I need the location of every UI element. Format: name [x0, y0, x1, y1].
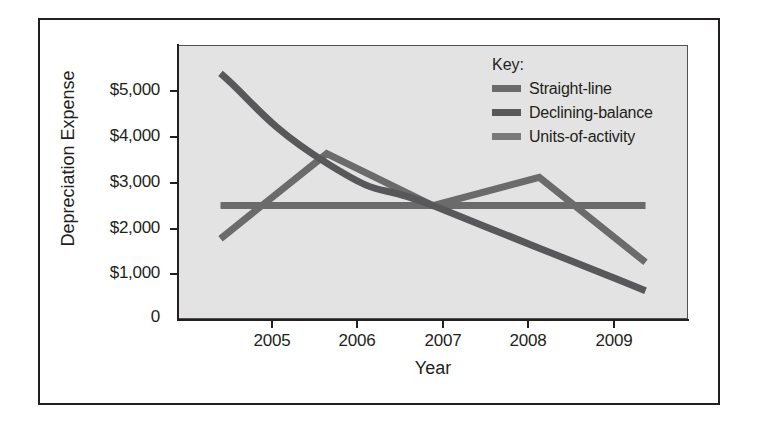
- x-axis-title: Year: [178, 358, 688, 379]
- figure-container: $5,000 $4,000 $3,000 $2,000 $1,000 0 200…: [0, 0, 758, 424]
- x-tick-2006: [356, 319, 358, 328]
- y-tick-label-0: 0: [88, 307, 160, 327]
- x-tick-label-2008: 2008: [493, 331, 563, 351]
- legend-swatch-straight-line: [492, 85, 521, 92]
- legend-label-straight-line: Straight-line: [529, 80, 612, 98]
- x-tick-2005: [271, 319, 273, 328]
- legend-swatch-declining-balance: [492, 109, 521, 116]
- legend-item-units-of-activity: Units-of-activity: [492, 126, 692, 147]
- x-tick-label-2007: 2007: [408, 331, 478, 351]
- legend-title: Key:: [492, 56, 692, 74]
- legend-label-units-of-activity: Units-of-activity: [529, 128, 635, 146]
- legend: Key: Straight-line Declining-balance Uni…: [492, 56, 692, 150]
- y-tick-label-2000: $2,000: [88, 218, 160, 238]
- y-tick-label-4000: $4,000: [88, 126, 160, 146]
- plot-wrapper: $5,000 $4,000 $3,000 $2,000 $1,000 0 200…: [0, 0, 758, 424]
- x-tick-label-2006: 2006: [322, 331, 392, 351]
- legend-swatch-units-of-activity: [492, 133, 521, 140]
- y-tick-label-3000: $3,000: [88, 172, 160, 192]
- y-tick-label-1000: $1,000: [88, 263, 160, 283]
- x-tick-label-2009: 2009: [579, 331, 649, 351]
- x-tick-label-2005: 2005: [237, 331, 307, 351]
- legend-label-declining-balance: Declining-balance: [529, 104, 653, 122]
- x-tick-2008: [527, 319, 529, 328]
- legend-item-straight-line: Straight-line: [492, 78, 692, 99]
- y-tick-label-5000: $5,000: [88, 80, 160, 100]
- y-axis-title: Depreciation Expense: [58, 49, 79, 269]
- x-tick-2007: [442, 319, 444, 328]
- legend-item-declining-balance: Declining-balance: [492, 102, 692, 123]
- x-tick-2009: [613, 319, 615, 328]
